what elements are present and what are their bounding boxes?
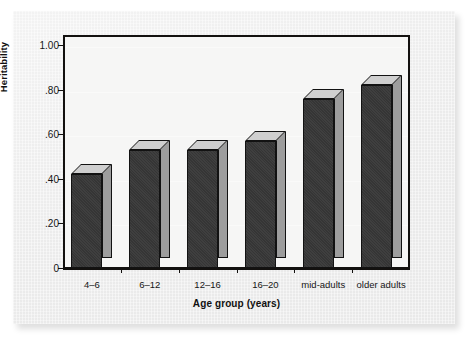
bar-front-face [129, 150, 160, 268]
bar-side-face [334, 89, 344, 258]
bar [303, 89, 334, 268]
bar-side-face [276, 131, 286, 258]
x-tick-label: 16–20 [252, 279, 278, 290]
y-tick-label: .20 [19, 218, 59, 229]
x-tick-mark [237, 268, 238, 273]
figure-root: 0.20.40.60.801.00 Heritability 4–66–1212… [0, 0, 476, 347]
y-tick-label: 0 [19, 263, 59, 274]
x-tick-mark [121, 268, 122, 273]
bar [71, 164, 102, 268]
x-tick-label: 12–16 [194, 279, 220, 290]
x-axis-title: Age group (years) [63, 298, 410, 309]
bar-side-face [392, 75, 402, 258]
bar-front-face [245, 141, 276, 268]
y-tick-label: .80 [19, 84, 59, 95]
bar [361, 75, 392, 268]
y-axis-title: Heritability [0, 12, 9, 122]
bar [187, 140, 218, 268]
bar-front-face [71, 174, 102, 268]
x-tick-label: mid-adults [301, 279, 345, 290]
bar [129, 140, 160, 268]
y-tick-label: 1.00 [19, 40, 59, 51]
y-tick-label: .60 [19, 129, 59, 140]
x-tick-label: 4–6 [84, 279, 100, 290]
bar-front-face [187, 150, 218, 268]
x-tick-mark [179, 268, 180, 273]
x-tick-mark [352, 268, 353, 273]
bar-side-face [218, 140, 228, 258]
y-tick-label: .40 [19, 173, 59, 184]
x-tick-label: older adults [357, 279, 406, 290]
bar-side-face [102, 164, 112, 258]
x-tick-label: 6–12 [139, 279, 160, 290]
bar-side-face [160, 140, 170, 258]
bar [245, 131, 276, 268]
bar-front-face [361, 85, 392, 268]
bars-layer [63, 35, 410, 271]
x-tick-mark [294, 268, 295, 273]
bar-front-face [303, 99, 334, 268]
